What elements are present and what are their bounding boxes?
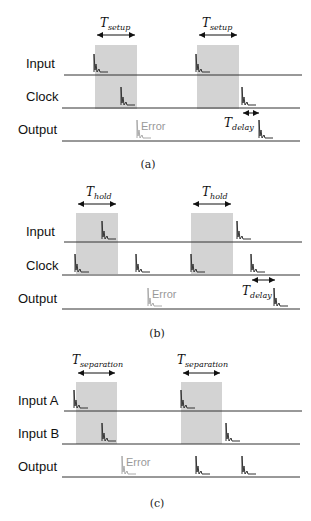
panel-a: Tsetup Tsetup Input Clock Output Error T…: [18, 16, 302, 171]
error-label: Error: [152, 288, 177, 300]
hold-window-2: [191, 213, 233, 274]
row-label-input: Input: [26, 56, 55, 71]
setup-window-1: [95, 45, 137, 109]
setup-window-2: [197, 45, 239, 109]
row-label-output: Output: [18, 459, 57, 474]
row-label-output: Output: [18, 122, 57, 137]
error-label: Error: [126, 456, 151, 468]
panel-b: Thold Thold Input Clock Output Error Tde…: [18, 185, 302, 340]
row-label-clock: Clock: [26, 258, 59, 273]
panel-c: Tseparation Tseparation Input A Input B …: [18, 353, 302, 510]
t-hold-label-2: Thold: [202, 185, 228, 201]
row-label-input-b: Input B: [18, 426, 59, 441]
caption-a: (a): [140, 158, 155, 171]
hold-window-1: [76, 213, 118, 274]
timing-diagrams: Tsetup Tsetup Input Clock Output Error T…: [0, 0, 311, 521]
separation-window-2: [181, 382, 222, 444]
t-setup-label-1: Tsetup: [100, 16, 130, 32]
caption-c: (c): [150, 497, 165, 510]
t-delay-label: Tdelay: [224, 116, 254, 132]
caption-b: (b): [149, 327, 165, 340]
row-label-clock: Clock: [26, 89, 59, 104]
t-setup-label-2: Tsetup: [202, 16, 232, 32]
t-separation-label-1: Tseparation: [72, 353, 123, 369]
row-label-output: Output: [18, 291, 57, 306]
t-separation-label-2: Tseparation: [177, 353, 228, 369]
error-label: Error: [141, 120, 166, 132]
row-label-input-a: Input A: [18, 393, 59, 408]
row-label-input: Input: [26, 224, 55, 239]
t-hold-label-1: Thold: [86, 185, 112, 201]
t-delay-label: Tdelay: [242, 284, 272, 300]
separation-window-1: [76, 382, 117, 444]
